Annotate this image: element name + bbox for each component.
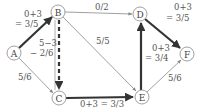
node-a: A (7, 46, 21, 60)
label-c-e: 0+3 = 3/3 (80, 99, 124, 109)
node-f: F (180, 47, 194, 61)
label-b-e: 5/5 (96, 36, 110, 46)
node-b: B (51, 5, 65, 19)
svg-text:A: A (10, 49, 18, 59)
node-e: E (135, 90, 149, 104)
svg-text:E: E (139, 93, 146, 103)
label-a-b-line1: 0+3 (24, 9, 42, 19)
node-d: D (133, 7, 147, 21)
label-b-c-line2: − 2/6 (30, 48, 54, 58)
label-e-d-line2: = 3/4 (145, 53, 169, 63)
label-d-f-line1: 0+3 (174, 2, 192, 12)
svg-text:B: B (55, 8, 62, 18)
label-d-f-line2: = 3/5 (166, 13, 190, 23)
svg-text:C: C (56, 94, 63, 104)
svg-text:D: D (136, 10, 143, 20)
label-e-d-line1: 0+3 (152, 43, 170, 53)
label-b-d: 0/2 (95, 2, 109, 12)
label-a-b-line2: = 3/5 (15, 19, 39, 29)
edge-c-e (66, 97, 133, 98)
edge-b-e (63, 17, 136, 91)
edge-b-d (65, 12, 132, 14)
flow-network-diagram: A B C D E F 0+3 = 3/5 5/6 5−3 − 2/6 0/2 … (0, 0, 200, 110)
label-a-c: 5/6 (18, 72, 32, 82)
edge-b-c (55, 20, 59, 90)
label-b-c-line1: 5−3 (39, 38, 57, 48)
svg-text:F: F (184, 50, 190, 60)
label-e-f: 5/6 (168, 73, 182, 83)
node-c: C (52, 91, 66, 105)
